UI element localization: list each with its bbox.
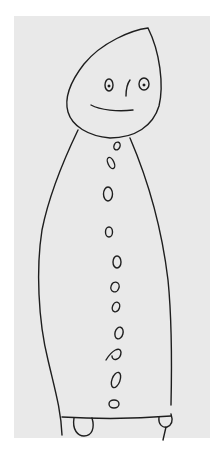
mouth — [91, 105, 133, 111]
button — [106, 156, 117, 169]
button — [104, 187, 113, 201]
button — [113, 256, 121, 268]
button — [113, 141, 121, 151]
button — [114, 326, 125, 340]
body-right — [130, 138, 172, 405]
figure-drawing — [0, 0, 223, 451]
hem — [62, 416, 171, 418]
nose — [126, 80, 130, 96]
body-left — [39, 130, 78, 435]
left-foot — [74, 418, 94, 436]
button — [106, 227, 113, 237]
head — [67, 28, 161, 138]
button — [111, 301, 121, 313]
button — [109, 400, 119, 408]
button — [110, 281, 121, 293]
button — [110, 371, 123, 389]
